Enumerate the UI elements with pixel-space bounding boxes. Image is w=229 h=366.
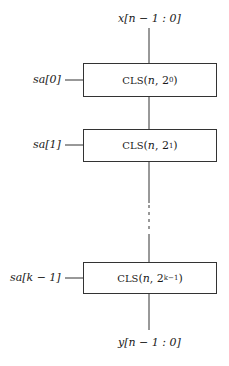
block-name: CLS (122, 75, 143, 86)
shift-base: 2 (157, 272, 164, 285)
shift-exp: 0 (169, 76, 173, 84)
cls-block-stage-k-1: CLS(n, 2k−1) (83, 262, 217, 294)
shift-exp: 1 (169, 142, 173, 150)
shift-base: 2 (162, 139, 169, 152)
arg-n: n (148, 139, 155, 152)
cls-block-stage-1: CLS(n, 21) (83, 129, 217, 162)
connection-lines (0, 0, 229, 366)
block-name: CLS (117, 273, 138, 284)
stage-1-select-label: sa[1] (33, 138, 61, 151)
arg-n: n (148, 74, 155, 87)
stage-0-select-label: sa[0] (33, 73, 61, 86)
arg-n: n (143, 272, 150, 285)
output-label: y[n − 1 : 0] (118, 336, 181, 349)
input-label: x[n − 1 : 0] (118, 12, 181, 25)
shift-base: 2 (162, 74, 169, 87)
stage-k-1-select-label: sa[k − 1] (10, 271, 61, 284)
shift-exp: k−1 (164, 274, 179, 282)
cls-block-stage-0: CLS(n, 20) (83, 63, 217, 97)
block-name: CLS (122, 140, 143, 151)
